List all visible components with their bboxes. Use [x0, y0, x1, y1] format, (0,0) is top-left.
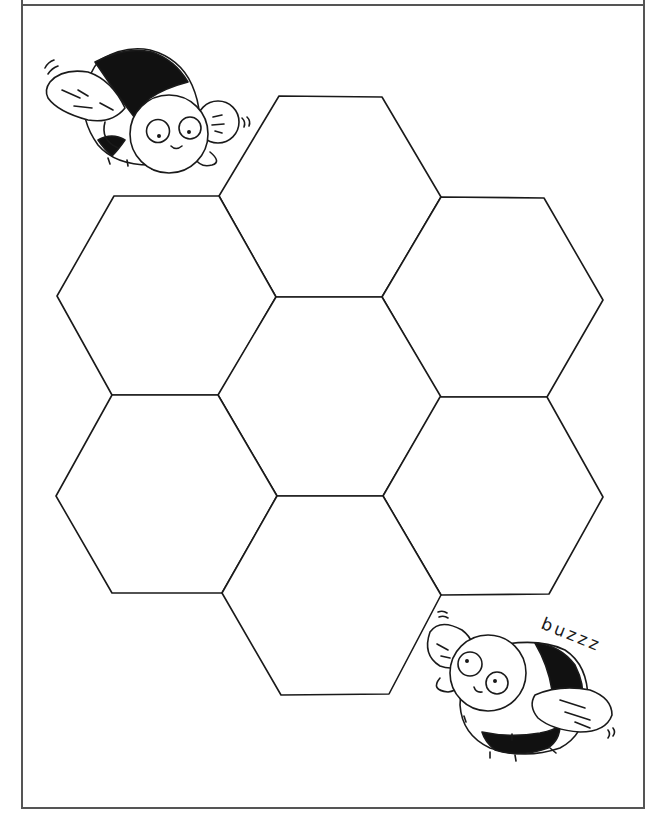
bee-eye-right	[486, 672, 508, 694]
bee-eye-left	[458, 652, 482, 676]
motion-lines-icon	[45, 60, 54, 68]
honeycomb-grid	[56, 96, 603, 695]
worksheet: buzzz	[0, 0, 669, 829]
bee-eye-right	[179, 117, 201, 139]
worksheet-canvas: buzzz	[0, 0, 669, 829]
top-left-bee	[45, 49, 250, 173]
motion-lines-icon	[438, 611, 447, 613]
bee-eye-left	[147, 120, 170, 143]
